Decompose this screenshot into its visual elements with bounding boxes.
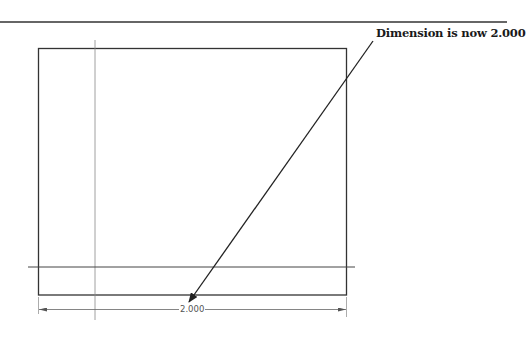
callout-leader-arrow <box>189 41 373 302</box>
sketch-rectangle[interactable] <box>39 49 347 296</box>
callout-text: Dimension is now 2.000 <box>376 26 525 40</box>
drawing-canvas <box>0 0 532 339</box>
dimension-value-label[interactable]: 2.000 <box>179 303 205 315</box>
